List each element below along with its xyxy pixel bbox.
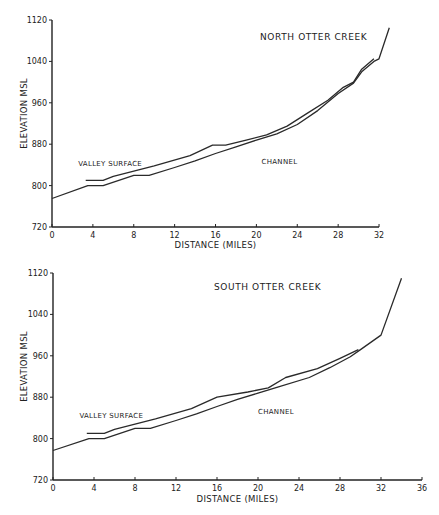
x-tick-label: 4 <box>90 231 95 240</box>
x-tick-label: 16 <box>212 484 222 493</box>
chart-title: SOUTH OTTER CREEK <box>214 282 322 292</box>
x-tick-label: 24 <box>294 484 304 493</box>
channel-line <box>52 28 389 199</box>
y-tick-label: 800 <box>32 182 47 191</box>
valley-surface-annotation: VALLEY SURFACE <box>78 160 142 168</box>
y-tick-label: 800 <box>33 435 48 444</box>
y-tick-label: 720 <box>32 223 47 232</box>
y-tick-label: 960 <box>33 352 48 361</box>
y-tick-label: 880 <box>33 393 48 402</box>
x-axis-label: DISTANCE (MILES) <box>175 240 257 250</box>
x-tick-label: 12 <box>170 231 180 240</box>
x-tick-label: 28 <box>335 484 345 493</box>
y-tick-label: 1040 <box>27 57 47 66</box>
x-tick-label: 32 <box>376 484 386 493</box>
y-axis-label: ELEVATION MSL <box>19 78 29 149</box>
valley-surface-annotation: VALLEY SURFACE <box>79 412 143 420</box>
x-tick-label: 0 <box>49 231 54 240</box>
y-tick-label: 720 <box>33 476 48 485</box>
elevation-profiles-figure: 72080088096010401120048121620242832DISTA… <box>0 0 439 515</box>
channel-annotation: CHANNEL <box>258 408 294 416</box>
x-tick-label: 24 <box>292 231 302 240</box>
y-tick-label: 1120 <box>28 269 48 278</box>
south-otter-creek-panel: 7208008809601040112004812162024283236DIS… <box>19 269 427 504</box>
x-tick-label: 20 <box>253 484 263 493</box>
valley-surface-line <box>87 350 359 434</box>
x-tick-label: 36 <box>417 484 427 493</box>
y-tick-label: 1040 <box>28 310 48 319</box>
x-tick-label: 8 <box>131 231 136 240</box>
x-axis-label: DISTANCE (MILES) <box>197 494 279 504</box>
chart-title: NORTH OTTER CREEK <box>260 32 368 42</box>
y-tick-label: 880 <box>32 140 47 149</box>
x-tick-label: 4 <box>91 484 96 493</box>
x-tick-label: 32 <box>374 231 384 240</box>
north-otter-creek-panel: 72080088096010401120048121620242832DISTA… <box>19 16 389 250</box>
channel-line <box>53 278 402 450</box>
y-tick-label: 1120 <box>27 16 47 25</box>
x-tick-label: 20 <box>251 231 261 240</box>
x-tick-label: 12 <box>171 484 181 493</box>
channel-annotation: CHANNEL <box>262 158 298 166</box>
y-tick-label: 960 <box>32 99 47 108</box>
x-tick-label: 28 <box>333 231 343 240</box>
x-tick-label: 8 <box>132 484 137 493</box>
x-tick-label: 0 <box>50 484 55 493</box>
x-tick-label: 16 <box>210 231 220 240</box>
y-axis-label: ELEVATION MSL <box>19 331 29 402</box>
